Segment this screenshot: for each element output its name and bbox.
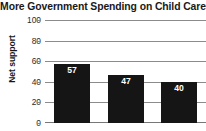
y-tick-dash-40: [37, 82, 41, 83]
y-tick-dash-80: [37, 41, 41, 42]
bar-3-value-label: 40: [161, 84, 197, 93]
gridline-80: [45, 41, 206, 42]
y-tick-dash-100: [37, 20, 41, 21]
chart-title: More Government Spending on Child Care: [0, 1, 206, 13]
y-tick-dash-60: [37, 61, 41, 62]
bar-chart-figure: More Government Spending on Child Care N…: [0, 0, 206, 131]
gridline-100: [45, 20, 206, 21]
plot-area: 57 47 40: [45, 20, 206, 123]
y-tick-dash-0: [37, 123, 41, 124]
bar-1-value-label: 57: [54, 66, 90, 75]
y-axis-tick-labels: 100 80 60 40 20 0: [17, 20, 41, 123]
y-axis-title: Net support: [7, 31, 17, 87]
y-tick-dash-20: [37, 102, 41, 103]
bar-3[interactable]: 40: [161, 82, 197, 123]
bar-1[interactable]: 57: [54, 64, 90, 123]
bar-2-value-label: 47: [108, 77, 144, 86]
bar-2[interactable]: 47: [108, 75, 144, 123]
gridline-60: [45, 61, 206, 62]
